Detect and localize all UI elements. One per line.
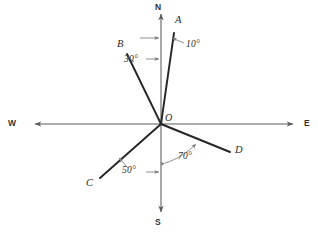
angle-label-30: 30°: [124, 55, 138, 65]
ray-d-line: [161, 124, 230, 152]
cardinal-label-west: W: [8, 119, 16, 128]
cardinal-label-east: E: [304, 119, 310, 128]
ray-label-a: A: [175, 15, 181, 26]
ray-label-b: B: [117, 39, 123, 50]
ray-label-c: C: [86, 178, 93, 189]
bearing-rays: [100, 33, 230, 178]
cardinal-label-north: N: [155, 3, 161, 12]
angle-label-10: 10°: [186, 40, 200, 50]
ray-a-line: [161, 33, 174, 124]
origin-point: [160, 123, 163, 126]
cardinal-axes: [35, 14, 293, 212]
compass-diagram: N S W E A B C D O 10° 30° 50° 70°: [0, 0, 318, 236]
ray-label-d: D: [235, 145, 243, 156]
ray-b-line: [127, 54, 161, 124]
angle-label-50: 50°: [122, 166, 136, 176]
origin-label: O: [165, 113, 172, 123]
angle-label-70: 70°: [178, 152, 192, 162]
cardinal-label-south: S: [155, 218, 161, 227]
compass-svg-canvas: [0, 0, 318, 236]
